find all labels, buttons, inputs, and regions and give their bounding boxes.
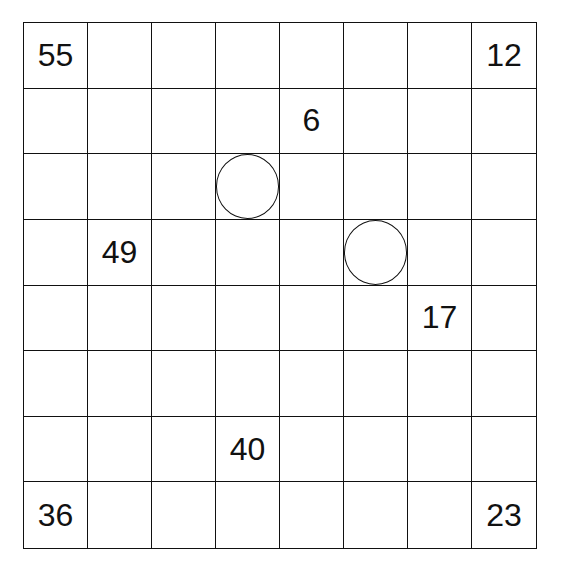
grid-cell-r5-c0[interactable] <box>24 351 88 417</box>
grid-cell-r2-c4[interactable] <box>280 154 344 220</box>
grid-cell-r5-c4[interactable] <box>280 351 344 417</box>
grid-cell-r3-c2[interactable] <box>152 220 216 286</box>
grid-cell-r0-c2[interactable] <box>152 23 216 89</box>
grid-cell-r5-c1[interactable] <box>88 351 152 417</box>
grid-cell-r2-c2[interactable] <box>152 154 216 220</box>
grid-cell-r4-c7[interactable] <box>472 286 536 352</box>
grid-cell-r6-c6[interactable] <box>408 417 472 483</box>
grid-cell-r6-c7[interactable] <box>472 417 536 483</box>
grid-cell-r1-c3[interactable] <box>216 89 280 155</box>
grid-cell-r3-c3[interactable] <box>216 220 280 286</box>
grid-cell-r7-c0[interactable]: 36 <box>24 482 88 548</box>
grid-cell-r5-c3[interactable] <box>216 351 280 417</box>
grid-cell-r6-c2[interactable] <box>152 417 216 483</box>
grid-cell-r2-c0[interactable] <box>24 154 88 220</box>
grid-cell-r7-c1[interactable] <box>88 482 152 548</box>
grid-cell-r1-c1[interactable] <box>88 89 152 155</box>
grid-cell-r0-c5[interactable] <box>344 23 408 89</box>
grid-cell-r4-c1[interactable] <box>88 286 152 352</box>
grid-cell-r3-c7[interactable] <box>472 220 536 286</box>
grid-cell-r3-c1[interactable]: 49 <box>88 220 152 286</box>
grid-cell-r7-c6[interactable] <box>408 482 472 548</box>
grid-cell-r1-c0[interactable] <box>24 89 88 155</box>
grid-cell-r3-c5[interactable] <box>344 220 408 286</box>
grid-cell-r5-c6[interactable] <box>408 351 472 417</box>
grid-cell-r0-c4[interactable] <box>280 23 344 89</box>
grid-cell-r4-c5[interactable] <box>344 286 408 352</box>
grid-cell-r6-c1[interactable] <box>88 417 152 483</box>
grid-cell-r5-c2[interactable] <box>152 351 216 417</box>
grid-cell-r7-c2[interactable] <box>152 482 216 548</box>
grid-cell-r7-c4[interactable] <box>280 482 344 548</box>
grid-cell-r7-c5[interactable] <box>344 482 408 548</box>
grid-cell-r1-c2[interactable] <box>152 89 216 155</box>
grid-cell-r2-c5[interactable] <box>344 154 408 220</box>
grid-cell-r3-c0[interactable] <box>24 220 88 286</box>
grid-cell-r2-c7[interactable] <box>472 154 536 220</box>
circle-marker <box>344 220 407 285</box>
grid-cell-r0-c7[interactable]: 12 <box>472 23 536 89</box>
grid-cell-r4-c0[interactable] <box>24 286 88 352</box>
grid-cell-r7-c7[interactable]: 23 <box>472 482 536 548</box>
clue-number: 6 <box>303 102 321 139</box>
grid-cell-r5-c5[interactable] <box>344 351 408 417</box>
grid-cell-r1-c7[interactable] <box>472 89 536 155</box>
grid-cell-r6-c5[interactable] <box>344 417 408 483</box>
clue-number: 12 <box>486 37 522 74</box>
grid-cell-r1-c4[interactable]: 6 <box>280 89 344 155</box>
circle-marker <box>216 154 279 219</box>
grid-cell-r2-c1[interactable] <box>88 154 152 220</box>
grid-cell-r1-c6[interactable] <box>408 89 472 155</box>
grid-cell-r6-c0[interactable] <box>24 417 88 483</box>
puzzle-grid: 551264917403623 <box>23 22 537 549</box>
grid-cell-r3-c4[interactable] <box>280 220 344 286</box>
clue-number: 55 <box>38 37 74 74</box>
grid-cell-r0-c6[interactable] <box>408 23 472 89</box>
grid-cell-r7-c3[interactable] <box>216 482 280 548</box>
grid-cell-r3-c6[interactable] <box>408 220 472 286</box>
clue-number: 23 <box>486 497 522 534</box>
clue-number: 17 <box>422 299 458 336</box>
clue-number: 40 <box>230 431 266 468</box>
grid-cell-r4-c3[interactable] <box>216 286 280 352</box>
grid-cell-r4-c2[interactable] <box>152 286 216 352</box>
grid-cell-r4-c4[interactable] <box>280 286 344 352</box>
grid-cell-r1-c5[interactable] <box>344 89 408 155</box>
grid-cell-r0-c0[interactable]: 55 <box>24 23 88 89</box>
grid-cell-r0-c1[interactable] <box>88 23 152 89</box>
grid-cell-r2-c6[interactable] <box>408 154 472 220</box>
grid-cell-r5-c7[interactable] <box>472 351 536 417</box>
grid-cell-r4-c6[interactable]: 17 <box>408 286 472 352</box>
grid-cell-r6-c3[interactable]: 40 <box>216 417 280 483</box>
grid-cell-r2-c3[interactable] <box>216 154 280 220</box>
clue-number: 49 <box>102 234 138 271</box>
grid-cell-r0-c3[interactable] <box>216 23 280 89</box>
clue-number: 36 <box>38 497 74 534</box>
grid-cell-r6-c4[interactable] <box>280 417 344 483</box>
